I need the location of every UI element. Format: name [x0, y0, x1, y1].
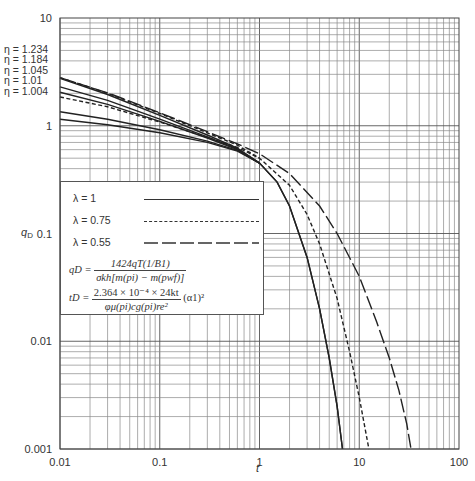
y-tick-label: 0.01 [31, 335, 52, 347]
dashed-line-swatch [144, 221, 259, 222]
x-tick-label: 10 [353, 456, 365, 468]
y-tick-label: 0.1 [37, 228, 52, 240]
x-axis-label: t [256, 462, 259, 474]
longdash-line-swatch [144, 242, 259, 245]
eta-label: η = 1.004 [4, 85, 48, 97]
y-tick-label: 1 [46, 120, 52, 132]
x-tick-label: 100 [450, 456, 468, 468]
x-tick-label: 0.01 [49, 456, 70, 468]
solid-line-swatch [144, 199, 259, 200]
y-tick-label: 0.001 [24, 443, 52, 455]
td-formula: tD = 2.364 × 10⁻⁴ × 24kt φμ(pi)cg(pi)re²… [69, 286, 204, 312]
qd-formula: qD = 1424qT(1/B1) σkh[m(pi) − m(pwf)] [69, 258, 186, 283]
y-axis-label: qD [21, 226, 33, 240]
legend: λ = 1 λ = 0.75 λ = 0.55 qD = 1424qT(1/B1… [60, 181, 264, 315]
y-tick-label: 10 [40, 12, 52, 24]
x-tick-label: 0.1 [152, 456, 167, 468]
